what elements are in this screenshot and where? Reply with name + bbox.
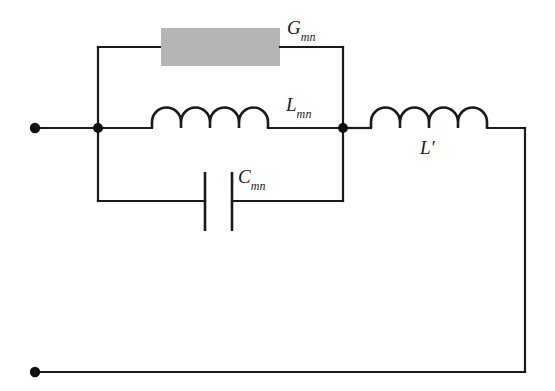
input-terminal-bottom-dot [30, 367, 40, 377]
label-gmn-sub: mn [301, 30, 316, 44]
label-gmn-base: G [287, 17, 301, 38]
circuit-schematic [0, 0, 555, 391]
right-junction-node-dot [338, 123, 348, 133]
label-cmn-sub: mn [251, 179, 266, 193]
resistor-block-gmn [161, 28, 280, 66]
inductor-coil-lprime [371, 107, 487, 128]
label-lprime-prime: ′ [431, 137, 435, 158]
circuit-diagram-canvas: Gmn Lmn Cmn L′ [0, 0, 555, 391]
branch-capacitance-cmn [98, 128, 343, 231]
label-inductance-lmn: Lmn [286, 95, 312, 117]
label-conductance-gmn: Gmn [287, 18, 316, 40]
label-capacitance-cmn: Cmn [238, 167, 266, 189]
label-lprime-base: L [420, 137, 431, 158]
left-junction-node-dot [93, 123, 103, 133]
label-cmn-base: C [238, 166, 251, 187]
return-path [35, 128, 525, 372]
label-lmn-sub: mn [297, 107, 312, 121]
branch-inductance-lprime [343, 107, 525, 128]
input-terminal-top-dot [30, 123, 40, 133]
label-lmn-base: L [286, 94, 297, 115]
label-inductance-lprime: L′ [420, 138, 435, 157]
inductor-coil-lmn [152, 107, 268, 128]
